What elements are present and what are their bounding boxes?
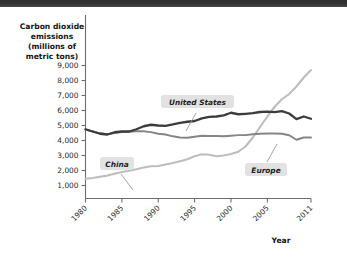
- y-tick-label-2000: 2,000: [57, 166, 78, 175]
- x-tick-label-2005: 2005: [251, 203, 271, 223]
- x-tick-label-2000: 2000: [215, 203, 235, 223]
- co2-emissions-line-chart: Carbon dioxide emissions (millions of me…: [0, 7, 347, 257]
- x-tick-label-1985: 1985: [106, 203, 126, 223]
- x-tick-label-1995: 1995: [178, 203, 198, 223]
- leader-line-europe: [267, 144, 277, 162]
- leader-line-china: [121, 174, 133, 190]
- x-axis-ticks: 1980198519901995200020052011: [69, 199, 314, 224]
- callout-label-china: China: [105, 160, 128, 169]
- y-tick-label-4000: 4,000: [57, 136, 78, 145]
- y-tick-label-7000: 7,000: [57, 91, 78, 100]
- callout-label-europe: Europe: [251, 166, 280, 175]
- callout-europe: Europe: [245, 144, 287, 176]
- x-tick-label-2011: 2011: [295, 203, 315, 223]
- y-axis-ticks: 1,0002,0003,0004,0005,0006,0007,0008,000…: [57, 61, 85, 190]
- series-line-united-states: [86, 111, 312, 134]
- y-tick-label-5000: 5,000: [57, 121, 78, 130]
- top-dark-banner: [0, 0, 347, 7]
- x-axis-title: Year: [271, 236, 291, 245]
- callout-label-united-states: United States: [169, 98, 227, 107]
- y-axis-title: Carbon dioxide emissions (millions of me…: [20, 22, 85, 61]
- x-tick-label-1990: 1990: [142, 203, 162, 223]
- y-tick-label-3000: 3,000: [57, 151, 78, 160]
- chart-canvas: Carbon dioxide emissions (millions of me…: [0, 7, 347, 257]
- y-axis-title-line-1: Carbon dioxide: [20, 22, 85, 31]
- y-axis-title-line-3: (millions of: [28, 42, 77, 51]
- x-tick-label-1980: 1980: [69, 203, 89, 223]
- y-tick-label-1000: 1,000: [57, 181, 78, 190]
- y-tick-label-9000: 9,000: [57, 61, 78, 70]
- y-axis-title-line-4: metric tons): [26, 52, 78, 61]
- y-tick-label-6000: 6,000: [57, 106, 78, 115]
- y-tick-label-8000: 8,000: [57, 76, 78, 85]
- y-axis-title-line-2: emissions: [31, 32, 74, 41]
- series-callouts: United States China Europe: [100, 95, 287, 190]
